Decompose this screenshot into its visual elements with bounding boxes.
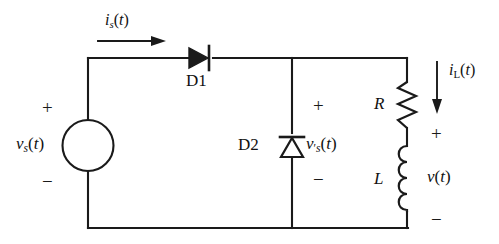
d2-plus-sign: + bbox=[313, 96, 324, 115]
source-current-label: is(t) bbox=[105, 12, 129, 30]
inductor-label: L bbox=[374, 170, 383, 187]
inductor-coils bbox=[399, 146, 407, 212]
resistor-zigzag bbox=[398, 82, 416, 128]
source-current-arrow-head bbox=[151, 36, 166, 46]
load-plus-sign: + bbox=[431, 124, 442, 143]
resistor-label: R bbox=[374, 95, 384, 112]
diode-voltage-label: v′s(t) bbox=[306, 135, 337, 155]
inductor-voltage-label: v(t) bbox=[427, 168, 451, 185]
load-current-arrow-head bbox=[432, 99, 442, 114]
load-current-label: iL(t) bbox=[449, 62, 475, 80]
source-plus-sign: + bbox=[42, 98, 53, 117]
schematic-drawing bbox=[0, 0, 499, 244]
diode-d1-label: D1 bbox=[186, 72, 207, 89]
source-minus-sign: − bbox=[42, 172, 53, 191]
source-voltage-label: vs(t) bbox=[16, 135, 44, 155]
diode-d1-triangle bbox=[189, 48, 208, 68]
d2-minus-sign: − bbox=[313, 170, 324, 189]
voltage-source-circle bbox=[63, 120, 114, 171]
diode-d2-label: D2 bbox=[238, 136, 259, 153]
diode-d2-triangle bbox=[281, 138, 303, 157]
load-minus-sign: − bbox=[431, 210, 442, 229]
circuit-diagram: is(t) is(t) D1 vs(t) vs(t) + − D2 v′s(t)… bbox=[0, 0, 499, 244]
